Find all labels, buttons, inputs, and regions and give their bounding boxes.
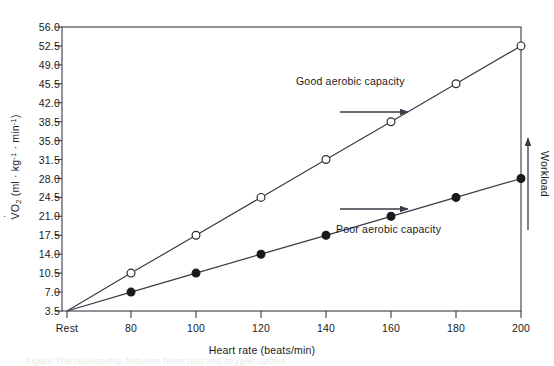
y-axis-title-units-open: (ml · kg xyxy=(9,160,21,200)
figure-caption-fragment: Figure The relationship between heart ra… xyxy=(26,356,286,366)
y-axis-title-units-mid: · min xyxy=(9,125,21,152)
annotation-good-aerobic-capacity: Good aerobic capacity xyxy=(296,75,405,87)
x-axis-tick-labels: Rest 80 100 120 140 160 180 200 xyxy=(0,0,554,366)
x-tick-label: 200 xyxy=(512,323,530,334)
y-axis-title-sup1: -1 xyxy=(9,153,18,160)
x-tick-label: 120 xyxy=(252,323,270,334)
figure-container: 3.5 7.0 10.5 14.0 17.5 21.0 24.5 28.0 31… xyxy=(0,0,554,366)
y-axis-title-sup2: -1 xyxy=(9,118,18,125)
annotation-workload: Workload xyxy=(539,129,551,219)
annotation-poor-aerobic-capacity: Poor aerobic capacity xyxy=(336,223,441,235)
x-tick-label: 160 xyxy=(382,323,400,334)
x-tick-label: 80 xyxy=(125,323,137,334)
x-axis-title: Heart rate (beats/min) xyxy=(209,344,316,356)
y-axis-title-units-close: ) xyxy=(9,114,21,118)
y-axis-title: VO2 (ml · kg-1 · min-1) xyxy=(9,77,23,257)
x-tick-label: 140 xyxy=(317,323,335,334)
y-axis-title-v: V xyxy=(9,212,21,219)
x-tick-label: 180 xyxy=(447,323,465,334)
y-axis-title-subscript: 2 xyxy=(14,199,23,203)
x-tick-label: 100 xyxy=(187,323,205,334)
x-axis-title-wrap: Heart rate (beats/min) xyxy=(0,344,554,356)
x-tick-label: Rest xyxy=(56,323,78,334)
